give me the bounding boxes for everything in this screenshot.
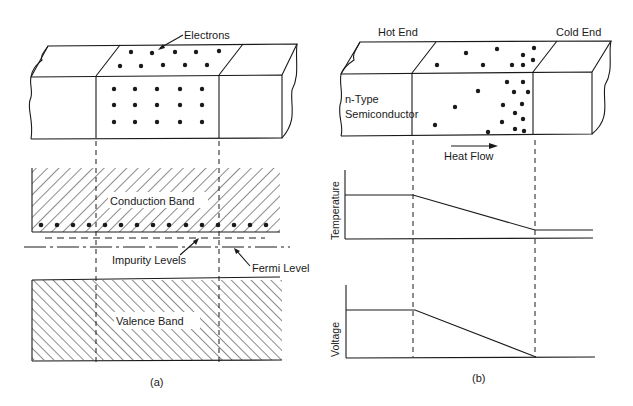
panel-a-caption: (a) [150, 376, 163, 388]
fermi-level-label: Fermi Level [252, 262, 309, 274]
voltage-axis-label: Voltage [329, 322, 341, 357]
semiconductor-block-a: Electrons [29, 29, 297, 139]
temperature-curve [345, 195, 593, 230]
hot-end-label: Hot End [378, 26, 418, 38]
electron-dots-top [118, 49, 221, 68]
panel-b-caption: (b) [472, 372, 485, 384]
semiconductor-block-b: n-Type Semiconductor [340, 41, 611, 136]
heat-flow-indicator: Heat Flow [444, 143, 498, 162]
temperature-plot: Temperature [329, 170, 593, 240]
conduction-band: Conduction Band [32, 168, 280, 232]
impurity-levels-label: Impurity Levels [112, 254, 186, 266]
material-label-line1: n-Type [345, 93, 379, 105]
thermoelectric-diagram: Electrons Conduction Band I [0, 0, 633, 406]
conduction-electron-markers [39, 223, 269, 228]
panel-a: Electrons Conduction Band I [24, 29, 309, 388]
voltage-curve [346, 310, 536, 357]
material-label-line2: Semiconductor [345, 108, 419, 120]
valence-band: Valence Band [32, 277, 282, 361]
electron-dots-gradient [433, 46, 536, 134]
electrons-label: Electrons [184, 29, 230, 41]
valence-band-label: Valence Band [116, 315, 184, 327]
conduction-band-label: Conduction Band [110, 195, 194, 207]
cold-end-label: Cold End [556, 26, 601, 38]
electron-dots-front [112, 87, 204, 124]
heat-flow-label: Heat Flow [444, 150, 494, 162]
voltage-plot: Voltage [329, 285, 595, 358]
temperature-axis-label: Temperature [329, 181, 341, 240]
panel-b: Hot End Cold End [329, 26, 611, 384]
